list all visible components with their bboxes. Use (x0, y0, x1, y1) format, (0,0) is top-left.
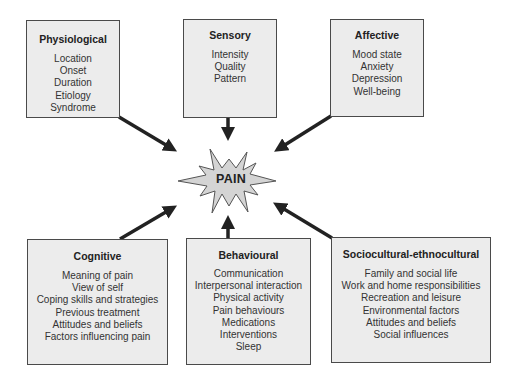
cognitive-items: Meaning of pain View of self Coping skil… (28, 270, 167, 343)
cognitive-box: Cognitive Meaning of pain View of self C… (27, 239, 168, 365)
pain-label: PAIN (208, 172, 254, 186)
sociocultural-box: Sociocultural-ethnocultural Family and s… (331, 237, 491, 363)
arrow-affective (280, 116, 331, 148)
physiological-title: Physiological (27, 33, 119, 45)
behavioural-item: Sleep (187, 341, 310, 353)
cognitive-item: Coping skills and strategies (28, 294, 167, 306)
arrow-physiological (119, 117, 171, 148)
arrow-sociocultural (279, 206, 332, 238)
sociocultural-item: Work and home responsibilities (332, 280, 490, 292)
sensory-item: Intensity (184, 49, 276, 61)
physiological-item: Etiology (27, 90, 119, 102)
behavioural-box: Behavioural Communication Interpersonal … (186, 238, 311, 365)
affective-item: Depression (331, 73, 423, 85)
behavioural-title: Behavioural (187, 249, 310, 261)
sociocultural-item: Social influences (332, 329, 490, 341)
cognitive-item: View of self (28, 282, 167, 294)
sensory-item: Pattern (184, 73, 276, 85)
behavioural-item: Interventions (187, 329, 310, 341)
cognitive-item: Previous treatment (28, 307, 167, 319)
physiological-items: Location Onset Duration Etiology Syndrom… (27, 53, 119, 114)
cognitive-title: Cognitive (28, 250, 167, 262)
affective-item: Well-being (331, 86, 423, 98)
affective-title: Affective (331, 29, 423, 41)
behavioural-item: Pain behaviours (187, 305, 310, 317)
sociocultural-item: Family and social life (332, 268, 490, 280)
sociocultural-items: Family and social life Work and home res… (332, 268, 490, 341)
behavioural-item: Medications (187, 317, 310, 329)
affective-item: Mood state (331, 49, 423, 61)
cognitive-item: Attitudes and beliefs (28, 319, 167, 331)
behavioural-item: Physical activity (187, 292, 310, 304)
sensory-item: Quality (184, 61, 276, 73)
physiological-item: Syndrome (27, 102, 119, 114)
physiological-item: Onset (27, 65, 119, 77)
physiological-box: Physiological Location Onset Duration Et… (26, 20, 120, 118)
sociocultural-title: Sociocultural-ethnocultural (332, 248, 490, 260)
behavioural-items: Communication Interpersonal interaction … (187, 268, 310, 353)
cognitive-item: Factors influencing pain (28, 331, 167, 343)
cognitive-item: Meaning of pain (28, 270, 167, 282)
behavioural-item: Interpersonal interaction (187, 280, 310, 292)
physiological-item: Duration (27, 77, 119, 89)
sensory-title: Sensory (184, 29, 276, 41)
sensory-items: Intensity Quality Pattern (184, 49, 276, 86)
arrow-cognitive (120, 209, 171, 239)
physiological-item: Location (27, 53, 119, 65)
sensory-box: Sensory Intensity Quality Pattern (183, 19, 277, 118)
affective-box: Affective Mood state Anxiety Depression … (330, 19, 424, 117)
sociocultural-item: Environmental factors (332, 305, 490, 317)
sociocultural-item: Recreation and leisure (332, 292, 490, 304)
sociocultural-item: Attitudes and beliefs (332, 317, 490, 329)
behavioural-item: Communication (187, 268, 310, 280)
affective-items: Mood state Anxiety Depression Well-being (331, 49, 423, 98)
affective-item: Anxiety (331, 61, 423, 73)
